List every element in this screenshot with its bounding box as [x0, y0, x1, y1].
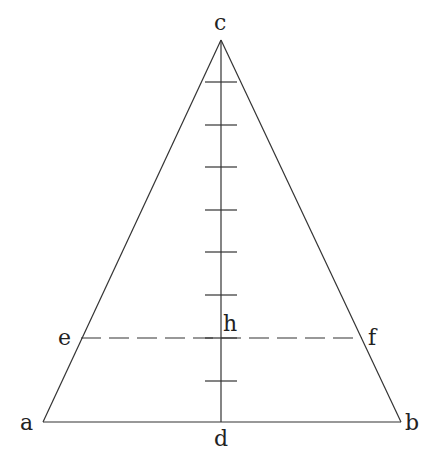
label-f: f	[368, 325, 378, 350]
label-d: d	[214, 426, 228, 451]
label-c: c	[214, 10, 226, 35]
side-ac	[43, 40, 221, 422]
label-h: h	[223, 311, 237, 336]
triangle-diagram: c a b d e f h	[0, 0, 438, 463]
label-b: b	[405, 410, 419, 435]
side-bc	[221, 40, 401, 422]
label-e: e	[58, 325, 71, 350]
label-a: a	[20, 410, 33, 435]
